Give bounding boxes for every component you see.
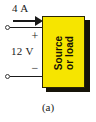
- voltage-label: 12 V: [11, 45, 34, 57]
- current-label: 4 A: [12, 2, 29, 14]
- block-label: Source or load: [53, 36, 75, 71]
- lead-wire-bottom: [10, 76, 44, 77]
- polarity-plus-sign: +: [29, 31, 41, 41]
- polarity-minus-sign: −: [29, 63, 41, 73]
- lead-wire-top: [10, 27, 44, 28]
- current-arrow-shaft: [13, 20, 37, 22]
- source-or-load-block: Source or load: [42, 16, 85, 88]
- figure-caption: (a): [0, 101, 96, 114]
- block-label-line1: Source: [53, 36, 64, 71]
- block-label-wrapper: Source or load: [43, 17, 85, 88]
- circuit-figure: 4 A + 12 V − Source or load (a): [0, 0, 96, 122]
- block-label-line2: or load: [64, 36, 75, 71]
